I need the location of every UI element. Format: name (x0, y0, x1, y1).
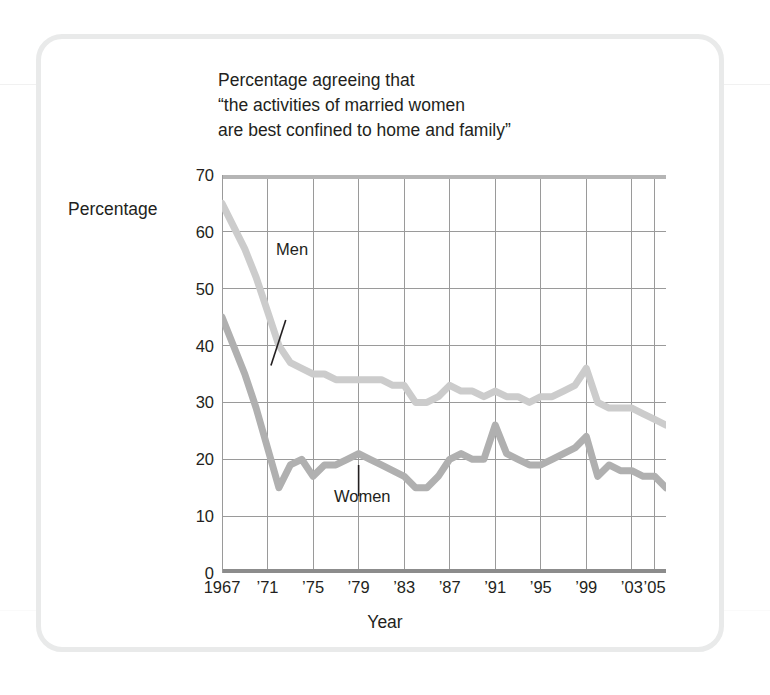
y-axis-title: Percentage (68, 199, 158, 220)
y-tick-label: 20 (174, 450, 214, 469)
x-tick-label: ’95 (530, 578, 552, 597)
y-tick-label: 40 (174, 336, 214, 355)
x-axis-title: Year (0, 612, 770, 633)
x-tick-label: ’71 (257, 578, 279, 597)
y-tick-label: 50 (174, 279, 214, 298)
x-tick-label: ’03 (621, 578, 643, 597)
x-tick-label: ’91 (484, 578, 506, 597)
figure-root: Percentage agreeing that “the activities… (0, 0, 770, 695)
chart-title: Percentage agreeing that “the activities… (218, 68, 638, 143)
line-chart-svg (222, 175, 666, 573)
series-label-men: Men (276, 240, 308, 259)
x-tick-label: ’05 (644, 578, 666, 597)
y-tick-label: 10 (174, 507, 214, 526)
y-axis-tick-labels: 010203040506070 (166, 175, 214, 573)
plot-area (222, 175, 666, 573)
y-tick-label: 70 (174, 166, 214, 185)
x-tick-label: 1967 (204, 578, 241, 597)
x-tick-label: ’79 (348, 578, 370, 597)
series-label-women: Women (334, 487, 391, 506)
y-tick-label: 30 (174, 393, 214, 412)
x-tick-label: ’99 (575, 578, 597, 597)
x-tick-label: ’83 (393, 578, 415, 597)
x-tick-label: ’87 (439, 578, 461, 597)
y-tick-label: 60 (174, 222, 214, 241)
x-tick-label: ’75 (302, 578, 324, 597)
x-axis-tick-labels: 1967’71’75’79’83’87’91’95’99’03’05 (222, 578, 666, 604)
